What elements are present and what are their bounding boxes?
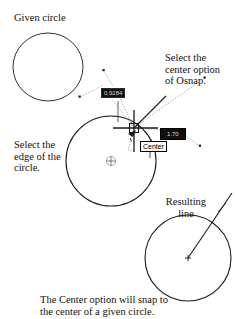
- center-marker-icon: [106, 156, 115, 165]
- figure-caption-line-2: the center of a given circle.: [40, 306, 154, 317]
- figure-canvas: Given circle Select the center option of…: [0, 0, 238, 319]
- label-edge-note: Select the edge of the circle.: [14, 139, 61, 174]
- given-circle: [13, 33, 83, 101]
- osnap-center-tooltip: Center: [140, 141, 167, 152]
- label-resulting-line: Resulting line: [155, 196, 217, 219]
- resulting-line-leader: [218, 203, 226, 212]
- label-given-circle: Given circle: [14, 12, 66, 24]
- distance-tooltip: 0.9284: [101, 88, 125, 98]
- label-osnap-note: Select the center option of Osnap.: [165, 52, 220, 87]
- angle-tooltip: 1.70: [160, 128, 186, 140]
- figure-caption-line-1: The Center option will snap to: [40, 294, 168, 305]
- figure-caption: The Center option will snap tothe center…: [40, 294, 168, 318]
